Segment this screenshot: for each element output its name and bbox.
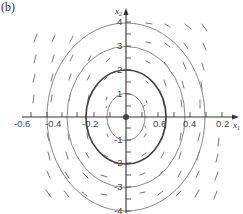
x-tick-label: -0.6 (14, 118, 30, 129)
x-axis-label: x1 (232, 120, 240, 131)
y-tick-label: 3 (117, 40, 122, 51)
x-tick-label: 0.4 (183, 118, 196, 129)
origin-marker (123, 114, 129, 120)
x-tick-label: 0.2 (216, 118, 229, 129)
x-tick-label: -0.2 (82, 118, 98, 129)
y-tick-label: -1 (114, 134, 122, 145)
phase-plot: -0.6 -0.4 -0.2 0.6 0.4 0.2 x1 4 3 2 1 -1… (0, 0, 243, 214)
y-tick-label: 4 (117, 16, 122, 27)
y-tick-label: 1 (117, 88, 122, 99)
x-axis-arrow-icon (232, 115, 239, 120)
y-tick-label: 2 (117, 64, 122, 75)
y-axis-label: x2 (114, 6, 122, 17)
y-axis-arrow-icon (124, 8, 129, 15)
axes (22, 11, 236, 213)
y-tick-label: -3 (114, 181, 122, 192)
x-tick-label: -0.4 (45, 118, 61, 129)
x-tick-label: 0.6 (153, 118, 166, 129)
y-tick-label: -2 (114, 157, 122, 168)
y-tick-label: -4 (114, 205, 122, 214)
